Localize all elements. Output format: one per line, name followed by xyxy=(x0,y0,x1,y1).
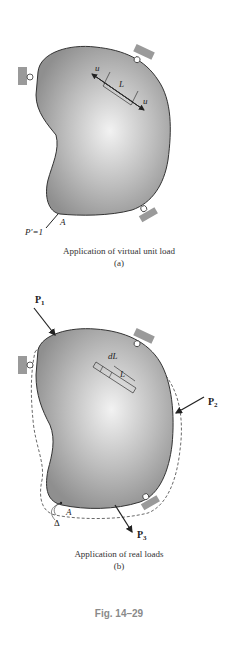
p2-arrow xyxy=(176,397,204,413)
point-a-label-b: A xyxy=(65,507,72,517)
dl-label: dL xyxy=(108,351,118,361)
u-label-top: u xyxy=(95,63,100,73)
point-a-label: A xyxy=(59,217,66,227)
p3-arrow xyxy=(115,505,132,532)
length-label-a: L xyxy=(118,79,124,89)
figure-b: dL L P1 P2 P3 A Δ xyxy=(18,294,218,542)
body-shape-b xyxy=(36,329,173,509)
length-label-b: L xyxy=(119,369,125,379)
p2-label: P2 xyxy=(208,396,218,409)
u-label-bottom: u xyxy=(143,96,148,106)
caption-a: Application of virtual unit load xyxy=(0,246,238,256)
body-shape-a xyxy=(36,46,170,215)
figure-number: Fig. 14–29 xyxy=(0,608,238,619)
sublabel-a: (a) xyxy=(0,258,238,268)
unit-load-arrow xyxy=(46,214,58,228)
unit-load-label: P′=1 xyxy=(24,227,43,237)
p1-label: P1 xyxy=(35,294,45,307)
figure-a: u u L A P′=1 xyxy=(18,44,170,237)
p3-label: P3 xyxy=(137,529,147,542)
support-left-a xyxy=(18,67,33,85)
sublabel-b: (b) xyxy=(0,561,238,571)
support-left-b xyxy=(18,356,33,374)
caption-b: Application of real loads xyxy=(0,549,238,559)
delta-label: Δ xyxy=(54,518,60,528)
p1-arrow xyxy=(34,308,55,335)
